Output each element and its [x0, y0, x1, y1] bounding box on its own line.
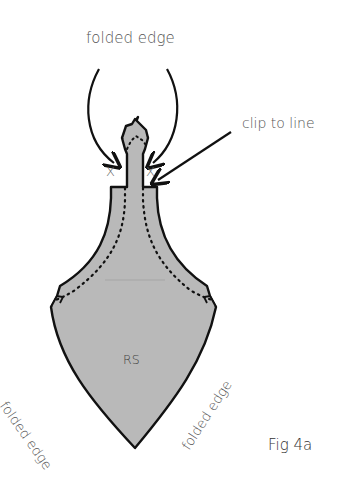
arrow-clip: [158, 132, 231, 180]
pattern-piece: [51, 117, 216, 448]
clip-to-line-label: clip to line: [242, 115, 315, 131]
folded-edge-top-label: folded edge: [86, 29, 175, 47]
top-tip: [122, 119, 148, 138]
arrow-left-curve: [88, 69, 114, 163]
pattern-diagram: [0, 0, 347, 485]
arrow-right-curve: [153, 69, 177, 163]
clip-mark-right: X: [146, 164, 155, 179]
clip-mark-left: X: [106, 164, 115, 179]
figure-caption: Fig 4a: [268, 436, 312, 454]
right-side-label: RS: [123, 352, 140, 367]
